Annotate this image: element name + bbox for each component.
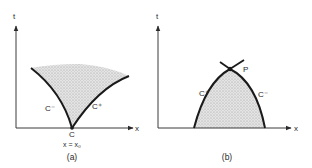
panel-a: t x C⁻ C⁺ C x = x₀ (a) xyxy=(13,12,139,162)
caption-a: (a) xyxy=(67,152,78,162)
caption-b: (b) xyxy=(222,152,233,162)
point-annotation-x0: x = x₀ xyxy=(63,141,81,148)
curve-label-c-minus-b: C⁻ xyxy=(258,90,268,99)
characteristics-figure: t x C⁻ C⁺ C x = x₀ (a) t x P C⁺ C⁻ (b) xyxy=(0,0,312,168)
point-label-c: C xyxy=(69,130,75,139)
curve-label-c-plus-b: C⁺ xyxy=(199,89,209,98)
shaded-region-a xyxy=(31,64,129,128)
point-label-p: P xyxy=(243,65,248,74)
t-axis-label-b: t xyxy=(156,12,159,21)
curve-label-c-minus-a: C⁻ xyxy=(45,104,55,113)
curve-label-c-plus-a: C⁺ xyxy=(92,102,102,111)
t-axis-label-a: t xyxy=(13,12,16,21)
x-axis-label-b: x xyxy=(294,124,298,133)
x-axis-label-a: x xyxy=(135,124,139,133)
c-plus-extension-b xyxy=(230,60,244,69)
panel-b: t x P C⁺ C⁻ (b) xyxy=(156,12,298,162)
point-p-marker xyxy=(228,67,232,71)
